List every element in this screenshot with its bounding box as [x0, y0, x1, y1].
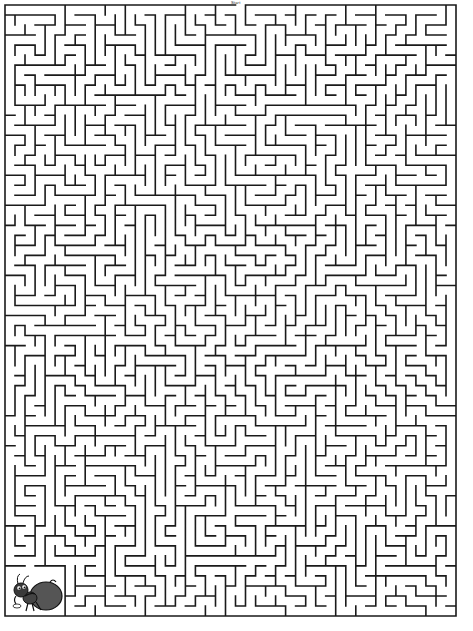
maze-board[interactable]: [0, 0, 473, 631]
maze-walls: [5, 5, 456, 616]
maze-wall-paths: [5, 5, 456, 616]
ant-with-sack-icon: [6, 566, 66, 616]
start-label: Start: [231, 0, 240, 5]
